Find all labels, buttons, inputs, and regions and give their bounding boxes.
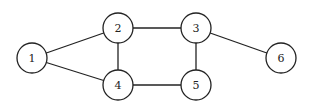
node-label: 6: [278, 52, 285, 65]
edges-layer: [32, 28, 281, 85]
node-label: 2: [115, 22, 122, 35]
node-label: 4: [115, 79, 122, 92]
node-3: 3: [181, 13, 211, 43]
node-2: 2: [103, 13, 133, 43]
node-label: 3: [193, 22, 200, 35]
node-5: 5: [181, 70, 211, 100]
nodes-layer: 123456: [17, 13, 296, 100]
node-6: 6: [266, 43, 296, 73]
graph-diagram: 123456: [0, 0, 315, 109]
node-4: 4: [103, 70, 133, 100]
node-1: 1: [17, 43, 47, 73]
node-label: 1: [29, 52, 36, 65]
node-label: 5: [193, 79, 200, 92]
